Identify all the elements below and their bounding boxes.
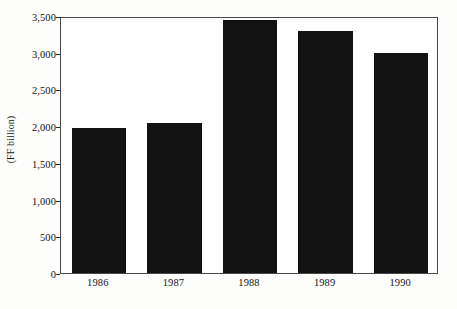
plot-area: [60, 17, 438, 274]
y-axis-tick-mark: [56, 90, 60, 91]
x-axis-tick-label: 1988: [211, 277, 287, 288]
y-axis-tick-label: 2,000: [14, 122, 56, 133]
bar: [298, 31, 352, 273]
x-axis-tick-label: 1986: [60, 277, 136, 288]
y-axis-tick-labels: 05001,0001,5002,0002,5003,0003,500: [14, 0, 56, 309]
bar: [223, 20, 277, 273]
y-axis-tick-label: 2,500: [14, 85, 56, 96]
bars-container: [61, 18, 437, 273]
x-axis-tick-labels: 19861987198819891990: [60, 277, 438, 297]
y-axis-tick-label: 0: [14, 269, 56, 280]
bar: [147, 123, 201, 274]
y-axis-tick-mark: [56, 54, 60, 55]
y-axis-tick-label: 500: [14, 232, 56, 243]
y-axis-tick-mark: [56, 164, 60, 165]
y-axis-tick-mark: [56, 127, 60, 128]
bar: [72, 128, 126, 273]
bar: [374, 53, 428, 273]
y-axis-tick-label: 3,500: [14, 12, 56, 23]
y-axis-tick-mark: [56, 274, 60, 275]
y-axis-tick-label: 1,000: [14, 195, 56, 206]
y-axis-tick-mark: [56, 17, 60, 18]
x-axis-tick-label: 1989: [287, 277, 363, 288]
chart-figure: (FF billion) 05001,0001,5002,0002,5003,0…: [0, 0, 457, 309]
y-axis-tick-mark: [56, 201, 60, 202]
y-axis-tick-label: 1,500: [14, 158, 56, 169]
y-axis-tick-label: 3,000: [14, 48, 56, 59]
x-axis-tick-label: 1990: [362, 277, 438, 288]
y-axis-tick-mark: [56, 237, 60, 238]
x-axis-tick-label: 1987: [136, 277, 212, 288]
